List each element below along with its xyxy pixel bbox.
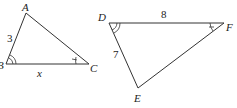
diagram-svg: A B C 3 x D F E 8 7 [0,0,237,108]
similar-triangles-diagram: A B C 3 x D F E 8 7 [0,0,237,108]
vertex-label-e: E [133,92,141,104]
triangle-abc [6,13,89,64]
side-de-length: 7 [113,48,119,60]
vertex-label-b: B [0,59,4,71]
vertex-label-c: C [90,62,98,74]
side-df-length: 8 [161,8,167,20]
triangle-def [109,23,224,88]
vertex-label-d: D [97,11,106,23]
side-ab-length: 3 [7,32,13,44]
vertex-label-a: A [21,1,29,13]
vertex-label-f: F [225,21,233,33]
angle-d-double-arc-inner [112,23,117,30]
side-bc-length: x [36,67,42,79]
angle-c-tick [72,59,77,60]
angle-b-double-arc-inner [9,58,13,64]
